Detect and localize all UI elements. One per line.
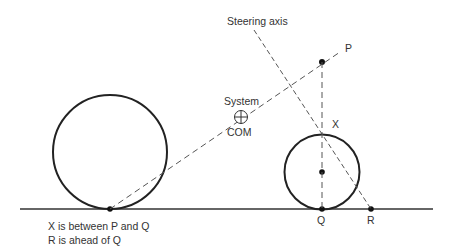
note-2: R is ahead of Q bbox=[48, 234, 121, 246]
label-R: R bbox=[367, 214, 375, 226]
label-system: System bbox=[224, 95, 259, 107]
steering-axis-label: Steering axis bbox=[227, 15, 288, 27]
rear-wheel bbox=[53, 95, 167, 209]
label-X: X bbox=[332, 118, 339, 130]
note-1: X is between P and Q bbox=[48, 220, 149, 232]
label-com: COM bbox=[227, 126, 252, 138]
steering-axis-line bbox=[254, 30, 371, 209]
label-P: P bbox=[345, 42, 352, 54]
label-Q: Q bbox=[317, 214, 325, 226]
rear-contact-to-P-line bbox=[110, 52, 340, 209]
com-icon bbox=[235, 111, 248, 124]
bicycle-geometry-diagram: Steering axis P X Q R System COM X is be… bbox=[0, 0, 458, 250]
